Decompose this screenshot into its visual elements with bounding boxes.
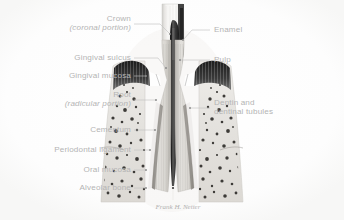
label-periodontal-ligament-line1: Periodontal ligament	[54, 145, 131, 154]
label-root-line1: Root	[65, 90, 131, 99]
label-enamel-line1: Enamel	[214, 25, 242, 34]
label-root-line2: (radicular portion)	[65, 99, 131, 108]
label-oral-mucosa-line1: Oral mucosa	[83, 165, 131, 174]
label-enamel: Enamel	[214, 25, 242, 34]
label-alveolar-bone: Alveolar bone	[80, 183, 131, 192]
label-dentin-line1: Dentin and	[214, 98, 273, 107]
label-pulp-line1: Pulp	[214, 55, 231, 64]
label-gingival-sulcus-line1: Gingival sulcus	[74, 53, 131, 62]
label-gingival-mucosa: Gingival mucosa	[69, 71, 131, 80]
label-root: Root (radicular portion)	[65, 90, 131, 109]
label-crown-line1: Crown	[70, 14, 131, 23]
label-dentin-line2: dentinal tubules	[214, 107, 273, 116]
label-cementum: Cementum	[90, 125, 131, 134]
label-alveolar-bone-line1: Alveolar bone	[80, 183, 131, 192]
label-gingival-mucosa-line1: Gingival mucosa	[69, 71, 131, 80]
label-crown-line2: (coronal portion)	[70, 23, 131, 32]
artist-signature: Frank H. Netter	[150, 203, 206, 215]
label-dentin: Dentin and dentinal tubules	[214, 98, 273, 117]
label-oral-mucosa: Oral mucosa	[83, 165, 131, 174]
label-periodontal-ligament: Periodontal ligament	[54, 145, 131, 154]
label-crown: Crown (coronal portion)	[70, 14, 131, 33]
label-cementum-line1: Cementum	[90, 125, 131, 134]
label-pulp: Pulp	[214, 55, 231, 64]
tooth-anatomy-illustration	[0, 0, 344, 220]
label-gingival-sulcus: Gingival sulcus	[74, 53, 131, 62]
